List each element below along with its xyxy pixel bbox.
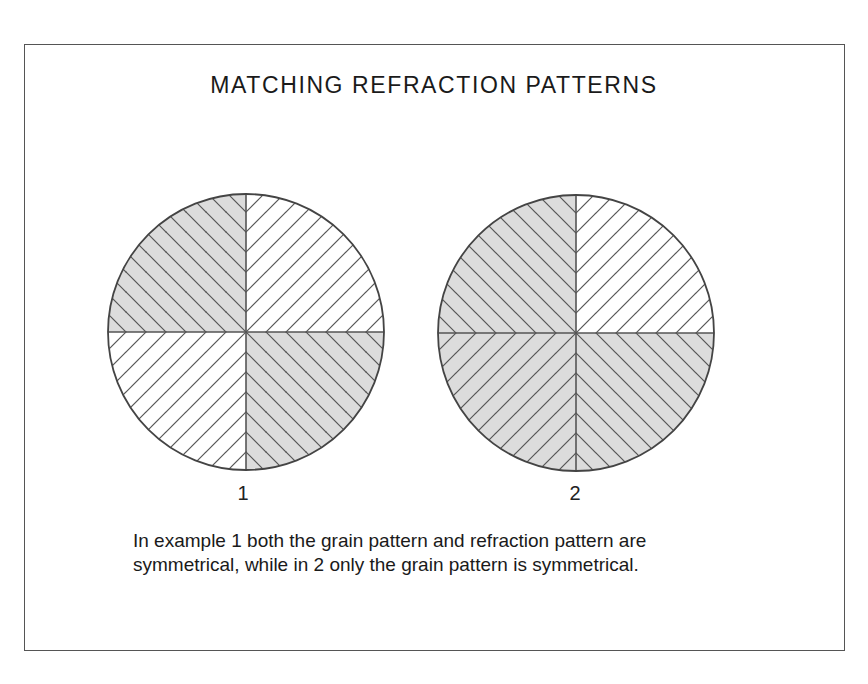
caption: In example 1 both the grain pattern and …	[133, 529, 733, 577]
figure-2-label: 2	[555, 482, 595, 505]
figure-1-label: 1	[223, 482, 263, 505]
refraction-diagrams	[0, 0, 868, 684]
figure-1-circle	[108, 194, 384, 470]
figure-2-circle	[438, 195, 714, 471]
